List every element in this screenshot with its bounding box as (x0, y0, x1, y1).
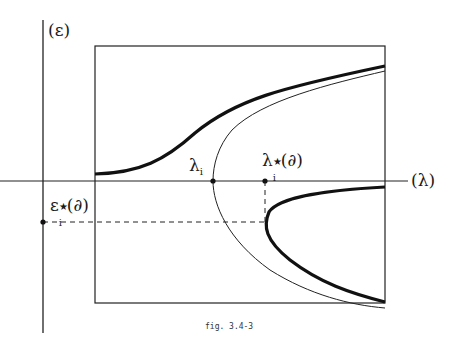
lambda-symbol: λ (189, 155, 200, 175)
subscript-i: i (200, 166, 203, 177)
frame-box (95, 46, 385, 303)
lambda-i-label: λi (189, 155, 203, 177)
star-superscript: ★ (273, 156, 282, 167)
lambda-symbol: λ (262, 150, 273, 170)
lambda-star-point (262, 178, 267, 183)
delta-arg: (∂) (281, 150, 303, 170)
lambda-star-label: λ★i(∂) (262, 150, 303, 170)
epsilon-star-point (40, 219, 45, 224)
x-axis-label: (λ) (411, 170, 435, 190)
subscript-i: i (59, 217, 62, 228)
figure-caption: fig. 3.4-3 (205, 322, 253, 331)
bifurcation-diagram (0, 0, 456, 351)
lower-thick-curve (266, 187, 385, 302)
lambda-i-point (210, 178, 215, 183)
subscript-i: i (273, 172, 276, 183)
star-superscript: ★ (59, 201, 68, 212)
epsilon-symbol: ε (50, 195, 59, 215)
y-axis-label: (ε) (48, 20, 70, 40)
epsilon-star-label: ε★i(∂) (50, 195, 89, 215)
delta-arg: (∂) (67, 195, 89, 215)
